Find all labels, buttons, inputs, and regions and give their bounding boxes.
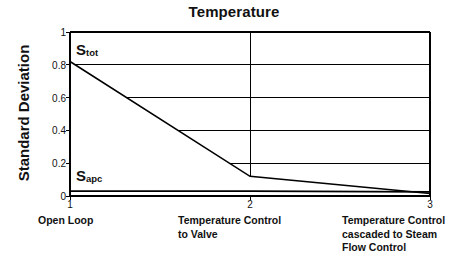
x-axis-category-captions: Open LoopTemperature Controlto ValveTemp… [0, 214, 468, 276]
y-axis-title: Standard Deviation [15, 45, 32, 182]
series-label-sapc: Sapc [76, 168, 102, 183]
x-tick-label: 2 [247, 199, 253, 210]
x-category-caption: Temperature Controlcascaded to SteamFlow… [342, 214, 445, 255]
x-category-caption-line: Flow Control [342, 241, 445, 255]
x-category-caption-line: Temperature Control [178, 214, 281, 228]
series-label-sapc-sub: apc [86, 173, 102, 184]
plot-canvas [70, 32, 430, 196]
y-tick-label: 0.2 [32, 158, 66, 169]
y-tick-label: 0.4 [32, 125, 66, 136]
y-axis-tick-labels: 00.20.40.60.81 [30, 32, 66, 196]
y-tick-label: 1 [32, 27, 66, 38]
series-label-stot: Stot [76, 42, 98, 57]
plot-area: Stot Sapc [70, 32, 430, 196]
x-category-caption-line: cascaded to Steam [342, 228, 445, 242]
x-tick-label: 1 [67, 199, 73, 210]
x-category-caption-line: Open Loop [38, 214, 93, 228]
y-tick-label: 0.6 [32, 92, 66, 103]
x-category-caption-line: to Valve [178, 228, 281, 242]
x-category-caption-line: Temperature Control [342, 214, 445, 228]
series-label-stot-base: S [76, 41, 86, 58]
y-tick-label: 0.8 [32, 59, 66, 70]
chart-figure: Temperature Standard Deviation 00.20.40.… [0, 0, 468, 278]
series-label-stot-sub: tot [86, 47, 98, 58]
y-tick-label: 0 [32, 191, 66, 202]
x-category-caption: Open Loop [38, 214, 93, 228]
chart-title: Temperature [0, 3, 468, 20]
x-category-caption: Temperature Controlto Valve [178, 214, 281, 241]
x-axis-tick-labels: 123 [70, 199, 430, 213]
series-label-sapc-base: S [76, 167, 86, 184]
series-line-Sapc [70, 191, 430, 192]
x-tick-label: 3 [427, 199, 433, 210]
